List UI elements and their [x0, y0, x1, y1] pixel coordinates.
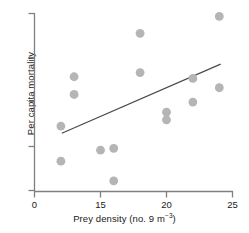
x-axis-title-base: Prey density (no. 9 m [73, 213, 165, 224]
data-point [162, 115, 171, 124]
x-tick-label: 20 [161, 199, 172, 210]
data-point [57, 157, 66, 166]
y-axis-ticks [29, 14, 35, 191]
x-axis-title-exponent: −3 [165, 212, 173, 219]
x-tick-label: 15 [95, 199, 106, 210]
data-point [189, 98, 198, 107]
x-axis-ticks [35, 192, 233, 198]
x-axis-title-tail: ) [173, 213, 176, 224]
data-point [96, 146, 105, 155]
data-point [136, 29, 145, 38]
data-point [70, 72, 79, 81]
x-tick-label: 0 [32, 199, 37, 210]
scatter-plot-figure: Per capita mortality 0 15 20 25 [0, 0, 249, 233]
data-point [215, 83, 224, 92]
plot-canvas: 0 15 20 25 [0, 0, 249, 233]
data-point [57, 122, 66, 131]
data-point [136, 68, 145, 77]
x-tick-label: 25 [227, 199, 238, 210]
x-axis-title: Prey density (no. 9 m−3) [0, 213, 249, 224]
data-point [109, 144, 118, 153]
data-point [215, 12, 224, 21]
data-point [189, 74, 198, 83]
data-point [109, 177, 118, 186]
x-axis-tick-labels: 0 15 20 25 [32, 199, 238, 210]
data-point [162, 108, 171, 117]
data-point [70, 90, 79, 99]
